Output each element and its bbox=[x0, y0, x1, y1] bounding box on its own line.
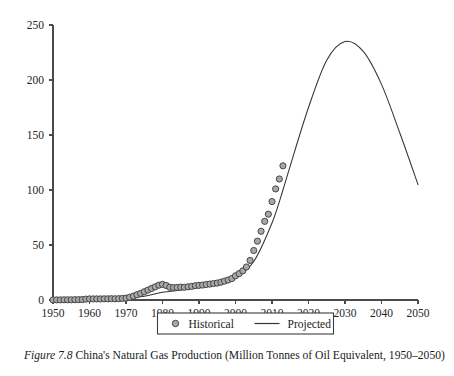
chart-canvas: 0501001502002501950196019701980199020002… bbox=[0, 0, 454, 345]
historical-data-point bbox=[265, 211, 271, 217]
historical-data-point bbox=[251, 247, 257, 253]
y-tick-label: 100 bbox=[27, 184, 45, 196]
y-tick-label: 150 bbox=[27, 129, 45, 141]
legend-label-projected[interactable]: Projected bbox=[288, 318, 332, 331]
chart-axes bbox=[53, 25, 418, 300]
y-tick-label: 200 bbox=[27, 74, 45, 86]
x-tick-label: 1970 bbox=[115, 307, 138, 319]
historical-data-point bbox=[258, 228, 264, 234]
y-tick-label: 250 bbox=[27, 19, 45, 31]
projected-series-line bbox=[53, 41, 418, 300]
historical-data-point bbox=[273, 186, 279, 192]
historical-data-point bbox=[276, 176, 282, 182]
historical-data-point bbox=[280, 163, 286, 169]
x-tick-label: 2030 bbox=[334, 307, 357, 319]
historical-data-point bbox=[254, 238, 260, 244]
figure-caption-label: Figure 7.8 bbox=[24, 349, 73, 362]
figure-container: 0501001502002501950196019701980199020002… bbox=[0, 0, 454, 376]
y-tick-label: 0 bbox=[38, 294, 44, 306]
historical-data-point bbox=[247, 257, 253, 263]
x-tick-label: 1960 bbox=[78, 307, 101, 319]
legend-marker-historical[interactable] bbox=[172, 320, 178, 326]
historical-data-point bbox=[262, 218, 268, 224]
figure-caption-text: China's Natural Gas Production (Million … bbox=[75, 349, 444, 362]
y-tick-label: 50 bbox=[33, 239, 45, 251]
x-tick-label: 2050 bbox=[407, 307, 430, 319]
historical-data-point bbox=[243, 264, 249, 270]
legend-label-historical[interactable]: Historical bbox=[189, 318, 234, 330]
x-tick-label: 2040 bbox=[370, 307, 393, 319]
figure-caption: Figure 7.8 China's Natural Gas Productio… bbox=[24, 349, 436, 363]
historical-data-point bbox=[269, 198, 275, 204]
x-tick-label: 1950 bbox=[42, 307, 65, 319]
